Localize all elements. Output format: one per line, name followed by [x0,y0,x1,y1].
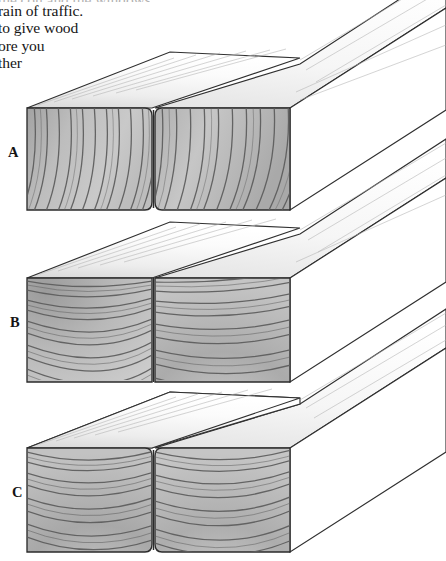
caption-line-0: the con and the windows [0,0,150,2]
caption-line-3: ore you [0,37,150,54]
beam-b-right-endface [155,278,290,382]
beam-c-right-endface [155,448,290,552]
figure-page: the con and the windows rain of traffic.… [0,0,446,561]
beam-label-b: B [10,314,20,331]
caption-line-4: ther [0,54,150,71]
beam-label-a: A [8,144,18,161]
beam-label-c: C [12,484,22,501]
caption-line-1: rain of traffic. [0,2,150,19]
wood-joint-illustration [0,0,446,561]
caption-line-2: to give wood [0,19,150,36]
caption-text-block: the con and the windows rain of traffic.… [0,0,150,72]
